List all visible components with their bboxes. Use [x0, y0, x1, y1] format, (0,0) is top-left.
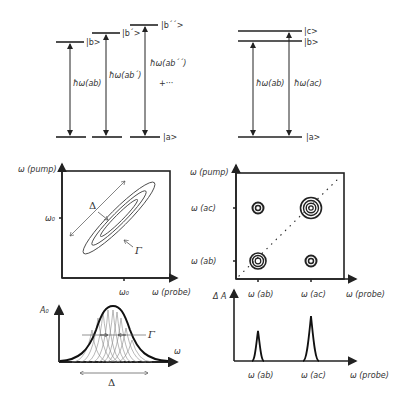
homogeneous-sublines [72, 310, 152, 362]
transition-ab: ħω(ab) [256, 79, 284, 88]
x-tick-ab: ω (ab) [248, 371, 273, 380]
peak-ab-ac [253, 203, 264, 214]
peak-ac-ab [306, 256, 317, 267]
label-c: |c> [304, 27, 318, 36]
x-tick-ab: ω (ab) [248, 290, 273, 299]
label-b: |b> [304, 38, 318, 47]
delta-label: Δ [89, 200, 96, 211]
y-tick-ac: ω (ac) [191, 204, 216, 213]
1d-lineshape-left [59, 306, 177, 373]
x-axis-label: ω (probe) [350, 371, 389, 380]
peak-ab-ab [250, 253, 266, 269]
transition-ab: ħω(ab) [73, 79, 101, 88]
y-tick-ab: ω (ab) [191, 257, 216, 266]
delta-label: Δ [108, 377, 115, 388]
y-tick-omega0: ω₀ [45, 214, 56, 223]
2d-spectrum-left [59, 164, 177, 281]
delta-pointer [98, 212, 108, 220]
y-axis-label: ω (pump) [18, 165, 57, 174]
gamma-label: Γ [147, 329, 156, 340]
energy-levels-left [56, 25, 160, 137]
x-axis-label: ω (probe) [346, 290, 385, 299]
transition-ac: ħω(ac) [294, 79, 322, 88]
1d-spectrum-right [234, 290, 356, 361]
label-b-dprime: |b´´> [161, 20, 183, 30]
spectroscopy-diagram: |b> |b´> |b´´> |a> ħω(ab) ħω(ab´) ħω(ab´… [0, 0, 407, 400]
y-axis-label: A₀ [39, 306, 49, 315]
x-tick-omega0: ω₀ [119, 288, 130, 297]
peak-ac-ac [301, 198, 322, 219]
peak-ac [303, 316, 319, 361]
label-b: |b> [86, 38, 100, 47]
y-axis-label: ω (pump) [190, 168, 229, 177]
transition-ab-prime: ħω(ab´) [109, 70, 141, 80]
2d-spectrum-right [233, 165, 356, 282]
elongated-peak-contours [77, 176, 160, 259]
transition-ab-dprime: ħω(ab´´) [150, 58, 186, 68]
gamma-pointer [124, 240, 133, 247]
x-axis-label: ω (probe) [152, 288, 191, 297]
x-tick-ac: ω (ac) [301, 290, 326, 299]
x-axis-label: ω [174, 347, 181, 356]
label-a: |a> [306, 133, 320, 142]
peak-ab [252, 331, 264, 361]
ellipsis: +··· [159, 79, 173, 88]
diagonal-dotted [239, 177, 340, 276]
gamma-label: Γ [134, 245, 143, 256]
x-tick-ac: ω (ac) [301, 371, 326, 380]
y-axis-label: Δ A [212, 292, 227, 301]
label-a: |a> [163, 133, 177, 142]
label-b-prime: |b´> [122, 28, 140, 38]
